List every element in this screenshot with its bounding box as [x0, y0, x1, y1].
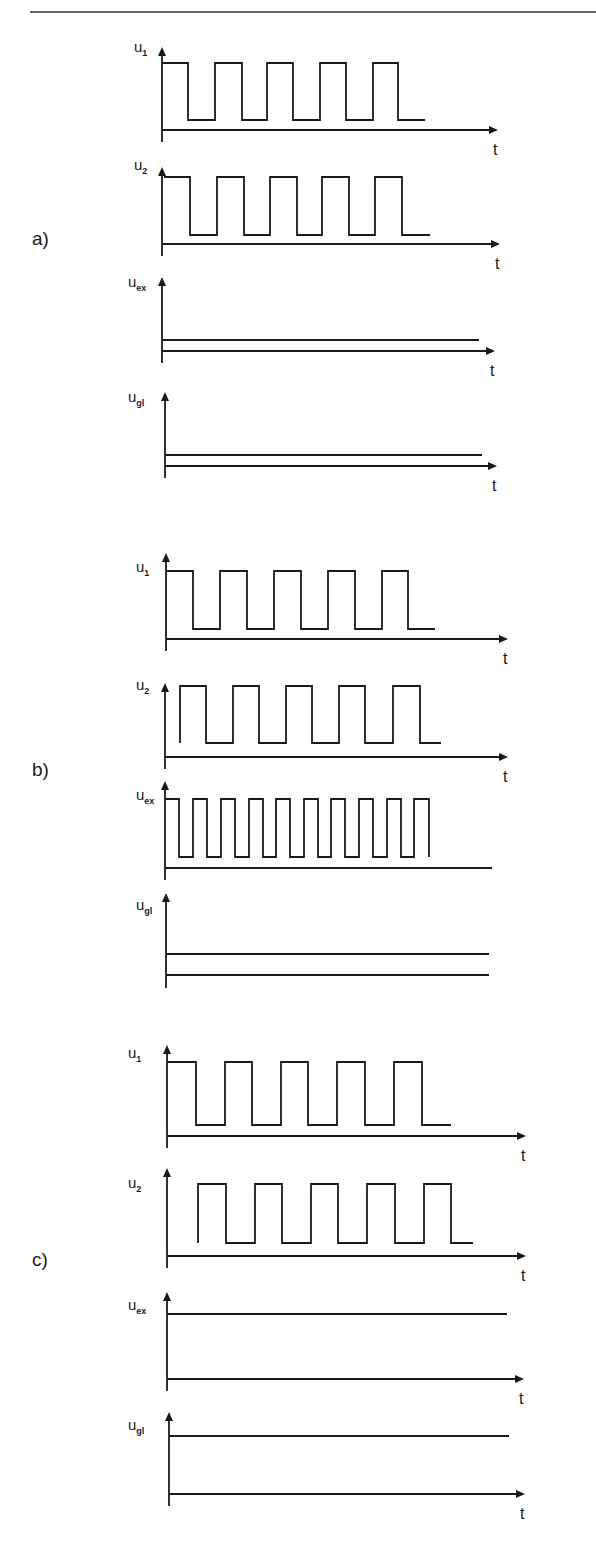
waveform-diagram: a)b)c) tu1tu2tuextugltu1tu2uexugltu1tu2t…: [0, 0, 596, 1553]
t-axis-label: t: [503, 650, 508, 667]
y-axis-arrow-icon: [158, 167, 166, 176]
part-labels: a)b)c): [32, 228, 49, 1270]
waveform-u2: [180, 686, 441, 743]
plots: tu1tu2tuextugltu1tu2uexugltu1tu2tuextugl: [128, 38, 526, 1522]
y-axis-arrow-icon: [163, 1292, 171, 1301]
waveform-u2: [164, 177, 430, 235]
t-axis-arrow-icon: [491, 240, 500, 248]
y-axis-arrow-icon: [161, 392, 169, 401]
t-axis-arrow-icon: [489, 126, 498, 134]
plot-u2-b: tu2: [136, 676, 508, 785]
t-axis-label: t: [519, 1390, 524, 1407]
waveform-u1: [162, 63, 425, 120]
y-axis-label: uex: [128, 273, 146, 293]
y-axis-arrow-icon: [163, 1045, 171, 1054]
y-axis-label: uex: [128, 1296, 146, 1316]
part-label: c): [32, 1249, 48, 1270]
y-axis-arrow-icon: [161, 781, 169, 790]
plot-ugl-c: tugl: [128, 1412, 525, 1522]
t-axis-arrow-icon: [515, 1375, 524, 1383]
t-axis-arrow-icon: [499, 635, 508, 643]
y-axis-arrow-icon: [163, 1168, 171, 1177]
y-axis-label: u1: [128, 1044, 141, 1064]
waveform-uex: [165, 799, 429, 857]
plot-ugl-a: tugl: [128, 388, 497, 494]
plot-u1-c: tu1: [128, 1044, 526, 1164]
t-axis-label: t: [492, 477, 497, 494]
waveform-u2: [198, 1184, 473, 1243]
plot-u1-a: tu1: [134, 38, 498, 158]
y-axis-label: ugl: [136, 896, 152, 916]
y-axis-arrow-icon: [158, 47, 166, 56]
y-axis-arrow-icon: [162, 553, 170, 562]
part-label: a): [32, 228, 49, 249]
t-axis-arrow-icon: [499, 753, 508, 761]
t-axis-arrow-icon: [486, 347, 495, 355]
t-axis-label: t: [521, 1147, 526, 1164]
part-label: b): [32, 759, 49, 780]
waveform-u1: [166, 571, 435, 629]
y-axis-label: u1: [136, 558, 149, 578]
y-axis-arrow-icon: [165, 1412, 173, 1421]
t-axis-arrow-icon: [516, 1490, 525, 1498]
y-axis-label: ugl: [128, 388, 144, 408]
y-axis-label: u2: [128, 1174, 141, 1194]
y-axis-label: ugl: [128, 1416, 144, 1436]
y-axis-label: u2: [134, 156, 147, 176]
t-axis-label: t: [503, 768, 508, 785]
plot-uex-b: uex: [136, 781, 492, 880]
t-axis-label: t: [490, 362, 495, 379]
plot-uex-a: tuex: [128, 273, 495, 379]
plot-u2-c: tu2: [128, 1168, 526, 1284]
plot-ugl-b: ugl: [136, 893, 489, 988]
y-axis-label: u2: [136, 676, 149, 696]
plot-u2-a: tu2: [134, 156, 500, 272]
plot-uex-c: tuex: [128, 1292, 524, 1407]
t-axis-arrow-icon: [517, 1132, 526, 1140]
t-axis-arrow-icon: [517, 1252, 526, 1260]
y-axis-arrow-icon: [162, 893, 170, 902]
y-axis-arrow-icon: [161, 683, 169, 692]
y-axis-label: uex: [136, 786, 154, 806]
waveform-u1: [167, 1062, 451, 1125]
t-axis-arrow-icon: [488, 462, 497, 470]
plot-u1-b: tu1: [136, 553, 508, 667]
y-axis-label: u1: [134, 38, 147, 58]
t-axis-label: t: [520, 1505, 525, 1522]
y-axis-arrow-icon: [158, 277, 166, 286]
t-axis-label: t: [521, 1267, 526, 1284]
t-axis-label: t: [495, 255, 500, 272]
t-axis-label: t: [493, 141, 498, 158]
